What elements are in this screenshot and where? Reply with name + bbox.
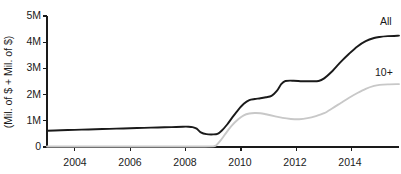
series-label-all: All bbox=[380, 15, 392, 27]
y-tick-label-3m: 3M bbox=[26, 61, 41, 73]
chart-container: (Mil. of $ + Mil. of $) 0 1M 2M 3M 4M 5M… bbox=[0, 0, 401, 174]
y-tick-label-4m: 4M bbox=[26, 35, 41, 47]
y-tick-label-0: 0 bbox=[35, 140, 41, 152]
x-axis-tick-labels: 2004 2006 2008 2010 2012 2014 bbox=[63, 156, 362, 168]
x-tick-label-2006: 2006 bbox=[118, 156, 142, 168]
line-chart: (Mil. of $ + Mil. of $) 0 1M 2M 3M 4M 5M… bbox=[0, 0, 401, 174]
y-axis-title: (Mil. of $ + Mil. of $) bbox=[2, 36, 14, 128]
y-tick-label-1m: 1M bbox=[26, 114, 41, 126]
series-label-10plus: 10+ bbox=[375, 66, 393, 78]
y-tick-label-2m: 2M bbox=[26, 88, 41, 100]
x-tick-label-2010: 2010 bbox=[228, 156, 252, 168]
x-tick-label-2004: 2004 bbox=[63, 156, 87, 168]
series-line-all bbox=[47, 36, 399, 135]
x-tick-label-2008: 2008 bbox=[173, 156, 197, 168]
chart-series bbox=[47, 36, 399, 147]
x-tick-label-2014: 2014 bbox=[338, 156, 362, 168]
series-line-10 bbox=[47, 84, 399, 146]
y-axis-tick-labels: 0 1M 2M 3M 4M 5M bbox=[26, 9, 41, 152]
x-tick-label-2012: 2012 bbox=[283, 156, 307, 168]
y-tick-label-5m: 5M bbox=[26, 9, 41, 21]
